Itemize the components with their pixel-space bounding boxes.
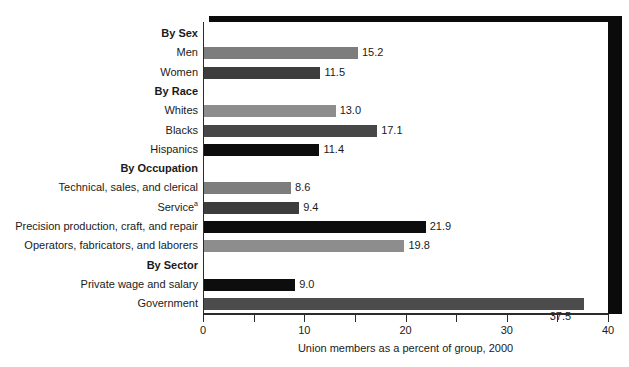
category-label: Hispanics: [150, 140, 198, 159]
chart-bar-row: Servicea9.4: [0, 198, 629, 217]
chart-bar-row: Men15.2: [0, 43, 629, 62]
x-axis-tick-label: 0: [200, 324, 206, 336]
clipped-header-remnant: [8, 0, 408, 3]
bar: [204, 182, 291, 194]
bar: [204, 67, 320, 79]
chart-bar-row: Private wage and salary9.0: [0, 275, 629, 294]
bar: [204, 144, 319, 156]
bar-value-label: 19.8: [408, 236, 429, 255]
chart-bar-row: Blacks17.1: [0, 121, 629, 140]
category-label: Servicea: [157, 198, 198, 217]
bar: [204, 125, 377, 137]
x-axis-major-tick: [608, 314, 609, 322]
category-label: Operators, fabricators, and laborers: [24, 236, 198, 255]
x-axis-title: Union members as a percent of group, 200…: [203, 342, 608, 354]
bar-value-label: 13.0: [340, 101, 361, 120]
category-label: Precision production, craft, and repair: [15, 217, 198, 236]
bar: [204, 279, 295, 291]
bar-value-label: 17.1: [381, 121, 402, 140]
x-axis-minor-tick: [355, 314, 356, 322]
group-header-label: By Occupation: [120, 159, 198, 178]
bar: [204, 298, 584, 310]
x-axis-tick-label: 10: [298, 324, 310, 336]
bar-value-label: 8.6: [295, 178, 310, 197]
x-axis-minor-tick: [557, 314, 558, 322]
bar: [204, 47, 358, 59]
bar: [204, 202, 299, 214]
chart-bar-row: Hispanics11.4: [0, 140, 629, 159]
bar-value-label: 11.5: [324, 63, 345, 82]
chart-bar-row: Operators, fabricators, and laborers19.8: [0, 236, 629, 255]
category-label: Technical, sales, and clerical: [59, 178, 198, 197]
category-label: Private wage and salary: [81, 275, 198, 294]
bar-value-label: 37.5: [550, 307, 571, 326]
group-header-label: By Race: [155, 82, 198, 101]
category-label: Government: [137, 294, 198, 313]
chart-bar-row: Women11.5: [0, 63, 629, 82]
bar-chart-figure: By SexMen15.2Women11.5By RaceWhites13.0B…: [0, 0, 629, 367]
x-axis-tick-label: 30: [501, 324, 513, 336]
category-label: Blacks: [166, 121, 198, 140]
chart-bar-row: Whites13.0: [0, 101, 629, 120]
x-axis-major-tick: [507, 314, 508, 322]
x-axis-major-tick: [406, 314, 407, 322]
category-label: Men: [177, 43, 198, 62]
bar-value-label: 11.4: [323, 140, 344, 159]
category-label: Women: [160, 63, 198, 82]
bar-value-label: 15.2: [362, 43, 383, 62]
x-axis-tick-label: 20: [399, 324, 411, 336]
bar-value-label: 9.4: [303, 198, 318, 217]
bar: [204, 221, 426, 233]
x-axis-major-tick: [203, 314, 204, 322]
x-axis-minor-tick: [456, 314, 457, 322]
bar: [204, 240, 404, 252]
chart-bar-row: Precision production, craft, and repair2…: [0, 217, 629, 236]
chart-group-header-row: By Race: [0, 82, 629, 101]
group-header-label: By Sex: [161, 24, 198, 43]
bar: [204, 105, 336, 117]
x-axis-minor-tick: [254, 314, 255, 322]
bar-value-label: 9.0: [299, 275, 314, 294]
chart-group-header-row: By Sector: [0, 256, 629, 275]
x-axis-tick-label: 40: [602, 324, 614, 336]
x-axis-major-tick: [304, 314, 305, 322]
group-header-label: By Sector: [147, 256, 198, 275]
chart-group-header-row: By Sex: [0, 24, 629, 43]
footnote-marker: a: [194, 200, 198, 207]
bar-value-label: 21.9: [430, 217, 451, 236]
category-label: Whites: [164, 101, 198, 120]
chart-bar-row: Technical, sales, and clerical8.6: [0, 178, 629, 197]
chart-group-header-row: By Occupation: [0, 159, 629, 178]
chart-bar-row: Government37.5: [0, 294, 629, 313]
